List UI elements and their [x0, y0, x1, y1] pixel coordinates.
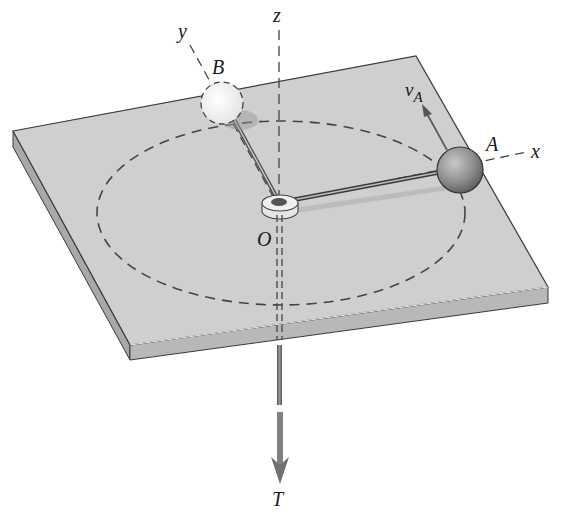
mechanics-diagram: z y B x A vA O T [0, 0, 562, 521]
y-axis-label: y [176, 20, 187, 43]
sphere-a [437, 147, 483, 193]
sphere-b [201, 82, 243, 124]
point-b-label: B [212, 56, 224, 78]
tension-arrow [271, 412, 289, 484]
velocity-subscript: A [412, 89, 423, 105]
z-axis-label: z [272, 4, 281, 26]
origin-label: O [257, 228, 271, 250]
point-a-label: A [484, 133, 499, 155]
ring-o [262, 195, 298, 219]
x-axis-label: x [530, 140, 540, 162]
tension-label: T [272, 488, 285, 510]
